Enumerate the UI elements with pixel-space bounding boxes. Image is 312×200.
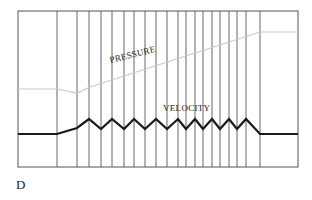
pressure-velocity-diagram bbox=[0, 0, 312, 200]
velocity-curve bbox=[18, 119, 298, 134]
panel-letter: D bbox=[16, 177, 25, 193]
pressure-curve bbox=[18, 32, 298, 93]
velocity-label: VELOCITY bbox=[163, 103, 210, 113]
cross-section-lines bbox=[57, 11, 260, 167]
